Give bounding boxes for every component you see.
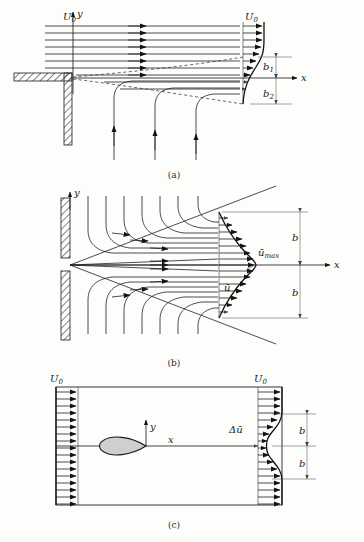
jet-wall-upper [61,198,70,258]
panel-a-caption: (a) [168,170,180,180]
panel-c-velocity-defect-label: Δū [228,424,243,435]
panel-c-x-axis-label: x [168,434,174,445]
panel-b-caption: (b) [168,358,181,368]
panel-b-y-axis-label: y [73,187,80,198]
panel-b-x-axis-label: x [334,259,340,270]
jet-wall-lower [61,271,70,340]
panel-c-b-upper-label: b [299,425,305,436]
panel-a-x-axis-label: x [301,72,307,83]
panel-b-b-lower-label: b [292,287,298,298]
panel-b-umean-label: ū [224,282,230,293]
splitter-plate-vertical [64,73,72,145]
splitter-plate-horizontal [14,73,72,81]
panel-c-b-lower-label: b [299,458,305,469]
figure-root: y x [0,0,364,542]
free-turbulent-flows-figure: y x [0,0,364,542]
panel-a-y-axis-label: y [76,8,83,19]
panel-b-b-upper-label: b [292,232,298,243]
panel-c-caption: (c) [168,520,180,530]
panel-c-y-axis-label: y [149,421,156,432]
